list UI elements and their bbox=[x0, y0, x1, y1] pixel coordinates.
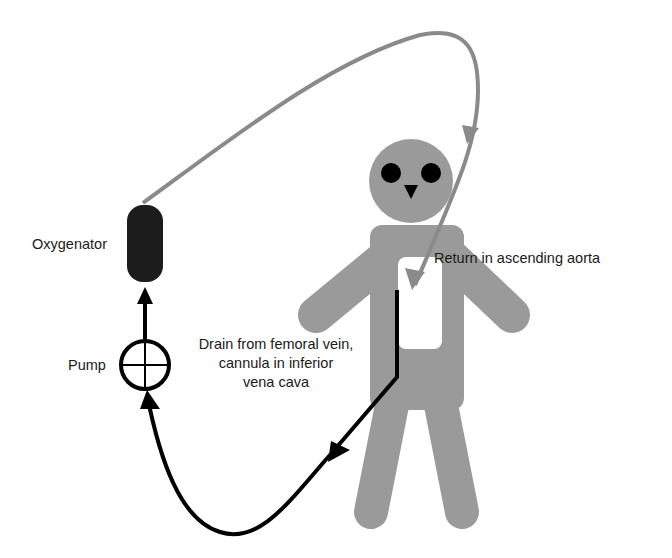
patient-figure bbox=[316, 139, 512, 512]
oxygenator-label: Oxygenator bbox=[32, 236, 107, 252]
drain-label-line2: cannula in inferior bbox=[219, 355, 334, 371]
return-label: Return in ascending aorta bbox=[434, 250, 601, 266]
head bbox=[369, 139, 453, 223]
pump-inflow-arrowhead bbox=[140, 390, 160, 409]
pump-outflow-arrowhead bbox=[137, 287, 153, 304]
pump-label: Pump bbox=[68, 357, 106, 373]
pump-icon bbox=[121, 341, 169, 389]
left-leg bbox=[371, 400, 393, 512]
right-leg bbox=[440, 400, 462, 512]
drain-label-line3: vena cava bbox=[243, 374, 310, 390]
oxygenator-icon bbox=[127, 205, 163, 282]
right-eye-icon bbox=[421, 163, 441, 183]
ecmo-diagram: Oxygenator Pump Drain from femoral vein,… bbox=[0, 0, 672, 558]
left-eye-icon bbox=[381, 163, 401, 183]
drain-label-line1: Drain from femoral vein, bbox=[199, 336, 354, 352]
